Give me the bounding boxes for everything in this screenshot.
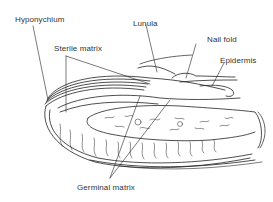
label-germinal-matrix: Germinal matrix [77, 184, 135, 192]
label-epidermis: Epidermis [220, 57, 256, 65]
label-nail-fold: Nail fold [207, 36, 237, 44]
nail-anatomy-diagram: Hyponychium Lunula Sterile matrix Nail f… [0, 0, 273, 202]
label-hyponychium: Hyponychium [15, 16, 65, 24]
label-lunula: Lunula [133, 20, 158, 28]
nail-illustration [0, 0, 273, 202]
label-sterile-matrix: Sterile matrix [54, 45, 102, 53]
